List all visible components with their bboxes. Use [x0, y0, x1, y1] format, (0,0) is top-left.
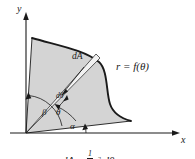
y-axis-arrowhead — [23, 12, 29, 20]
axis-label-y: y — [17, 4, 21, 14]
formula-r-exponent: 2 — [97, 155, 100, 159]
d-theta-label: dθ — [56, 92, 63, 100]
angle-alpha-label: α — [70, 122, 75, 131]
formula-lhs: dA — [62, 154, 74, 159]
formula-equals: = — [77, 154, 84, 159]
caption-formula: dA = 1 2 r2 dθ — [62, 150, 114, 159]
angle-theta-label: θ — [56, 108, 60, 117]
formula-d-theta: dθ — [104, 154, 115, 159]
x-axis-arrowhead — [172, 130, 180, 136]
polar-area-diagram: y x dA dθ r = f(θ) β θ α dA = 1 2 r2 dθ — [0, 0, 195, 159]
angle-beta-label: β — [42, 108, 46, 117]
diagram-canvas — [0, 0, 195, 159]
axis-label-x: x — [181, 135, 185, 145]
area-element-label: dA — [72, 52, 83, 62]
curve-equation-label: r = f(θ) — [116, 61, 149, 72]
formula-fraction: 1 2 — [87, 150, 92, 159]
